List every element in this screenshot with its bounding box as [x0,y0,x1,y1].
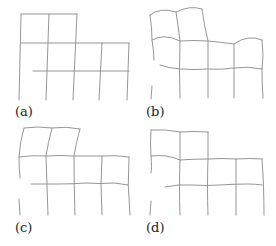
panel-label-d: (d) [146,220,164,235]
panel-label-c: (c) [15,220,32,235]
panel-c: (c) [0,123,138,246]
panel-a: (a) [0,0,138,123]
panel-label-b: (b) [146,104,164,119]
panel-d: (d) [138,123,276,246]
panel-b: (b) [138,0,276,123]
panel-label-a: (a) [15,104,33,119]
